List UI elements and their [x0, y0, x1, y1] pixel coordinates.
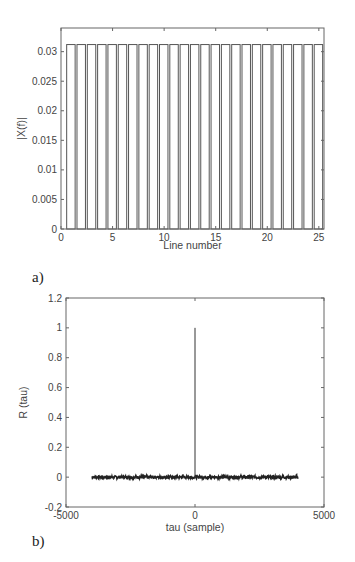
y-tick-label: 0.025 — [32, 76, 57, 87]
bar — [242, 45, 250, 229]
x-axis-label: Line number — [163, 239, 222, 251]
bar — [159, 45, 167, 229]
bar — [283, 45, 291, 229]
bar — [87, 45, 95, 229]
y-tick-label: 1.2 — [48, 293, 62, 304]
y-tick-label: 0 — [56, 472, 62, 483]
bar — [211, 45, 219, 229]
bar — [294, 45, 302, 229]
y-tick-label: 0.005 — [32, 194, 57, 205]
panel-label: a) — [32, 269, 44, 286]
plot-area — [67, 45, 323, 229]
x-tick-label: 5 — [110, 232, 116, 243]
bar — [180, 45, 188, 229]
x-tick-label: 20 — [262, 232, 274, 243]
chart-panel-b: -500005000-0.200.20.40.60.811.2tau (samp… — [17, 293, 336, 551]
chart-panel-a: 051015202500.0050.010.0150.020.0250.03Li… — [15, 28, 325, 286]
bar — [314, 45, 322, 229]
x-tick-label: 0 — [58, 232, 64, 243]
y-axis-label: |X(f)| — [15, 117, 27, 139]
bar — [108, 45, 116, 229]
bar — [273, 45, 281, 229]
bar — [139, 45, 147, 229]
bar — [118, 45, 126, 229]
bar — [129, 45, 137, 229]
bar — [190, 45, 198, 229]
plot-area — [92, 328, 298, 479]
bar — [98, 45, 106, 229]
y-tick-label: -0.2 — [45, 502, 63, 513]
x-tick-label: 5000 — [313, 510, 336, 521]
x-tick-label: 0 — [192, 510, 198, 521]
axes-box — [61, 28, 324, 229]
bar — [252, 45, 260, 229]
bar — [263, 45, 271, 229]
x-tick-label: 25 — [313, 232, 325, 243]
y-tick-label: 0.03 — [38, 46, 58, 57]
x-axis-label: tau (sample) — [166, 521, 224, 533]
y-tick-label: 0.015 — [32, 135, 57, 146]
y-tick-label: 0.2 — [48, 442, 62, 453]
bar — [67, 45, 75, 229]
bar — [149, 45, 157, 229]
bar — [232, 45, 240, 229]
y-axis-label: R (tau) — [17, 386, 29, 418]
bar — [201, 45, 209, 229]
y-tick-label: 0.6 — [48, 382, 62, 393]
panel-label: b) — [32, 533, 45, 550]
bar — [170, 45, 178, 229]
y-tick-label: 0.01 — [38, 164, 58, 175]
y-tick-label: 0.8 — [48, 352, 62, 363]
bar — [77, 45, 85, 229]
bar — [304, 45, 312, 229]
bar — [221, 45, 229, 229]
y-tick-label: 0 — [51, 224, 57, 235]
y-tick-label: 0.4 — [48, 412, 62, 423]
y-tick-label: 0.02 — [38, 105, 58, 116]
figure: 051015202500.0050.010.0150.020.0250.03Li… — [0, 0, 355, 562]
y-tick-label: 1 — [56, 322, 62, 333]
